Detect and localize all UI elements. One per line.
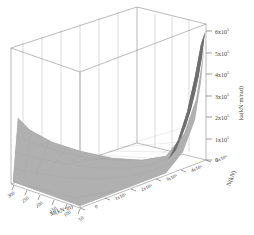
z-axis: 6x105 5x105 4x105 3x105 2x105 1x105 0 (206, 27, 245, 163)
surface-plot-figure: 6x105 5x105 4x105 3x105 2x105 1x105 0 (0, 0, 254, 235)
x-tick-label-2: 200 (35, 200, 44, 209)
z-tick-label-4: 4x105 (215, 70, 229, 77)
z-axis-title: ka(kN·m/rad) (237, 86, 245, 120)
z-tick-label-3: 3x105 (215, 92, 229, 99)
x-tick-label-5: 50 (78, 215, 85, 222)
z-axis-tick-marks (206, 31, 212, 160)
plot-canvas: 6x105 5x105 4x105 3x105 2x105 1x105 0 (0, 0, 254, 235)
z-tick-label-1: 1x105 (215, 135, 229, 142)
y-tick-label-1: 1x10³ (114, 192, 127, 201)
z-tick-label-2: 2x105 (215, 113, 229, 120)
right-wall-gridlines (155, 14, 189, 152)
surface-floor-sheet (13, 118, 190, 206)
x-tick-label-0: 300 (7, 190, 16, 199)
y-tick-label-0: 0 (94, 204, 99, 210)
y-tick-label-3: 3x10³ (165, 173, 178, 182)
z-axis-tick-labels: 6x105 5x105 4x105 3x105 2x105 1x105 0 (215, 27, 229, 163)
x-tick-label-1: 250 (21, 195, 30, 204)
z-tick-label-5: 5x105 (215, 49, 229, 56)
box-top-face (11, 7, 206, 72)
z-tick-label-6: 6x105 (215, 27, 229, 34)
y-axis-title: N(kN) (224, 169, 237, 187)
y-tick-label-5: 5x10³ (215, 154, 228, 163)
